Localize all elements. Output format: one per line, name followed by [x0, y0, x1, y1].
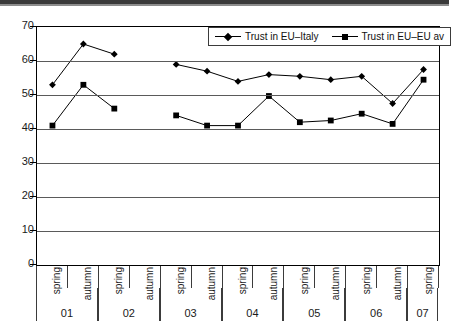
diamond-marker-icon: [215, 32, 241, 42]
x-axis-label-rot: autumn: [82, 250, 93, 283]
x-axis-year-group-02: 02: [98, 288, 160, 321]
x-axis-label-rot: autumn: [144, 250, 155, 283]
data-point-1-4[interactable]: [173, 113, 179, 119]
series-line-0: [176, 64, 423, 103]
x-axis-tick: [67, 266, 68, 288]
data-point-1-11[interactable]: [390, 121, 396, 127]
gridline: [37, 163, 439, 164]
x-axis-label-rot: spring: [361, 253, 372, 280]
data-point-1-9[interactable]: [328, 118, 334, 124]
data-point-0-6[interactable]: [235, 78, 242, 85]
x-axis-tick: [283, 266, 284, 288]
x-axis-year-label: 02: [98, 307, 160, 319]
gridline: [37, 129, 439, 130]
x-axis-tick: [407, 266, 408, 288]
data-point-0-8[interactable]: [296, 73, 303, 80]
x-axis-year-label: 07: [407, 307, 438, 319]
data-point-1-10[interactable]: [359, 111, 365, 117]
x-axis-tick: [129, 266, 130, 288]
x-axis-label-rot: autumn: [268, 250, 279, 283]
x-axis-end-tick: [438, 266, 439, 321]
x-axis-label-rot: spring: [299, 253, 310, 280]
series-line-1: [176, 80, 423, 126]
data-point-0-9[interactable]: [327, 76, 334, 83]
x-axis-year-group-04: 04: [222, 288, 284, 321]
x-axis-label-rot: autumn: [392, 250, 403, 283]
x-axis-year-label: 05: [283, 307, 345, 319]
x-axis-tick: [191, 266, 192, 288]
series-line-1: [52, 85, 114, 126]
x-axis-tick: [98, 266, 99, 288]
y-axis: 010203040506070: [0, 26, 34, 266]
x-axis-tick: [345, 266, 346, 288]
x-axis-tick: [252, 266, 253, 288]
data-point-1-2[interactable]: [111, 106, 117, 112]
x-axis-label-rot: spring: [175, 253, 186, 280]
x-axis-year-group-07: 07: [407, 288, 438, 321]
legend-entry-italy[interactable]: Trust in EU–Italy: [215, 31, 319, 42]
legend-entry-eu-average[interactable]: Trust in EU–EU av: [332, 31, 444, 42]
data-point-0-5[interactable]: [204, 68, 211, 75]
x-axis-tick: [36, 266, 37, 288]
plot-area: [36, 26, 440, 266]
x-axis-tick: [314, 266, 315, 288]
data-point-1-12[interactable]: [421, 77, 427, 83]
gridline: [37, 95, 439, 96]
x-axis-label-rot: spring: [51, 253, 62, 280]
legend-label-eu-average: Trust in EU–EU av: [362, 31, 444, 42]
x-axis-year-label: 03: [160, 307, 222, 319]
x-axis-tick: [222, 266, 223, 288]
line-chart: 010203040506070 springautumnspringautumn…: [0, 6, 449, 321]
x-axis-tick: [376, 266, 377, 288]
x-axis-label-rot: spring: [423, 253, 434, 280]
gridline: [37, 61, 439, 62]
gridline: [37, 197, 439, 198]
data-point-0-2[interactable]: [111, 51, 118, 58]
x-axis-year-group-06: 06: [345, 288, 407, 321]
x-axis-label-rot: spring: [237, 253, 248, 280]
legend-label-italy: Trust in EU–Italy: [245, 31, 319, 42]
x-axis-year-label: 04: [222, 307, 284, 319]
x-axis-label-rot: autumn: [206, 250, 217, 283]
x-axis-label-rot: autumn: [330, 250, 341, 283]
x-axis-tick: [160, 266, 161, 288]
data-point-1-8[interactable]: [297, 119, 303, 125]
x-axis-year-group-01: 01: [36, 288, 98, 321]
x-axis-label-rot: spring: [113, 253, 124, 280]
x-axis-year-group-03: 03: [160, 288, 222, 321]
data-point-1-1[interactable]: [80, 82, 86, 88]
x-axis-year-label: 06: [345, 307, 407, 319]
x-axis: springautumnspringautumnspringautumnspri…: [36, 266, 440, 321]
x-axis-year-label: 01: [36, 307, 98, 319]
square-marker-icon: [332, 32, 358, 42]
gridline: [37, 231, 439, 232]
x-axis-year-group-05: 05: [283, 288, 345, 321]
series-line-0: [52, 44, 114, 85]
series-layer: [37, 27, 439, 265]
data-point-0-7[interactable]: [266, 71, 273, 78]
data-point-0-4[interactable]: [173, 61, 180, 68]
chart-legend: Trust in EU–Italy Trust in EU–EU av: [208, 27, 451, 46]
